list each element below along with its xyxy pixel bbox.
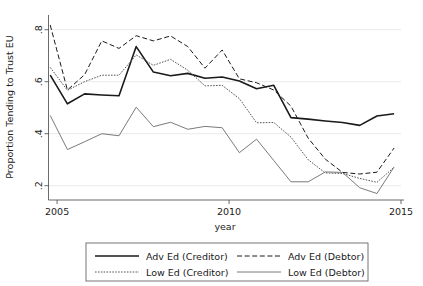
x-axis-tick-labels: 200520102015 — [45, 206, 413, 217]
data-series-group — [50, 25, 394, 193]
legend-label-0: Adv Ed (Creditor) — [146, 251, 228, 262]
x-axis-ticks — [57, 200, 401, 204]
chart-legend: Adv Ed (Creditor)Adv Ed (Debtor)Low Ed (… — [86, 243, 368, 281]
y-axis-ticks — [45, 30, 49, 186]
x-tick-label: 2015 — [389, 206, 413, 217]
line-chart: .2.4.6.8 200520102015 Proportion Tending… — [0, 0, 423, 286]
x-tick-label: 2005 — [45, 206, 69, 217]
series-line-3 — [50, 107, 394, 193]
y-tick-label: .2 — [33, 181, 44, 190]
y-tick-label: .8 — [33, 25, 44, 34]
gridlines — [49, 30, 402, 186]
series-line-0 — [50, 47, 394, 126]
y-tick-label: .4 — [33, 129, 44, 138]
chart-figure: .2.4.6.8 200520102015 Proportion Tending… — [0, 0, 423, 286]
x-axis-title: year — [214, 221, 235, 232]
legend-label-2: Low Ed (Creditor) — [146, 267, 228, 278]
y-axis-tick-labels: .2.4.6.8 — [33, 25, 44, 190]
legend-items: Adv Ed (Creditor)Adv Ed (Debtor)Low Ed (… — [95, 251, 365, 278]
series-line-2 — [50, 55, 394, 182]
series-line-1 — [50, 25, 394, 174]
y-axis-title: Proportion Tending to Trust EU — [4, 35, 15, 178]
legend-label-1: Adv Ed (Debtor) — [288, 251, 364, 262]
y-tick-label: .6 — [33, 77, 44, 86]
legend-label-3: Low Ed (Debtor) — [288, 267, 365, 278]
x-tick-label: 2010 — [217, 206, 241, 217]
